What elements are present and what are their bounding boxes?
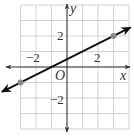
- y-axis-label: y: [68, 1, 77, 16]
- x-tick-label-2: 2: [94, 50, 101, 65]
- origin-label: O: [55, 68, 65, 83]
- y-tick-label-2: 2: [57, 28, 64, 43]
- data-point: [18, 80, 24, 86]
- x-axis-label: x: [119, 68, 127, 83]
- data-point: [111, 33, 117, 39]
- coordinate-plane: y x O 2 −2 −2 2: [0, 0, 134, 136]
- y-tick-label-neg2: −2: [50, 92, 64, 107]
- x-tick-label-neg2: −2: [26, 50, 40, 65]
